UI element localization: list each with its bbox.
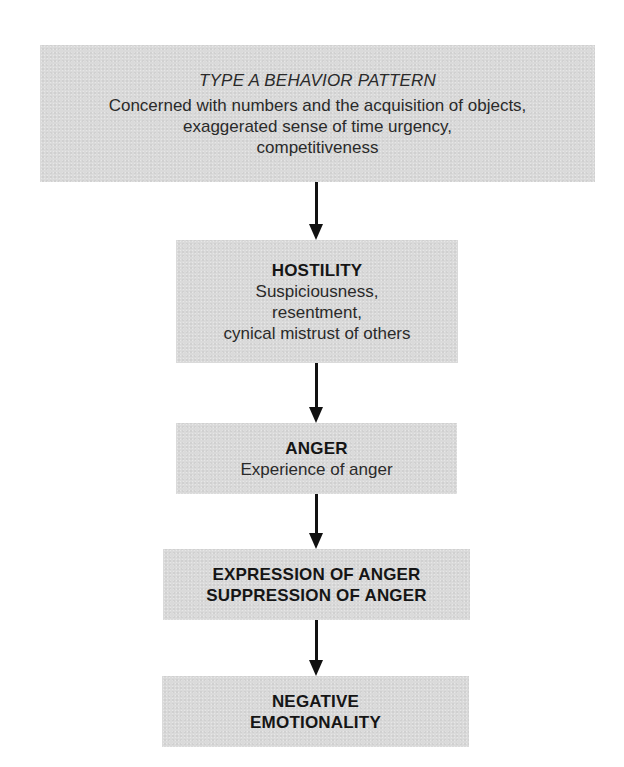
node-title: HOSTILITY bbox=[272, 260, 363, 281]
node-anger: ANGER Experience of anger bbox=[176, 423, 457, 494]
description-line: competitiveness bbox=[109, 137, 527, 158]
node-expression-suppression-of-anger: EXPRESSION OF ANGER SUPPRESSION OF ANGER bbox=[163, 549, 470, 620]
node-title-line: NEGATIVE bbox=[272, 691, 359, 712]
arrow-down-icon bbox=[309, 620, 323, 676]
node-description: Suspiciousness, resentment, cynical mist… bbox=[223, 281, 410, 344]
node-title-line: EMOTIONALITY bbox=[250, 712, 381, 733]
node-title-line: EXPRESSION OF ANGER bbox=[212, 564, 420, 585]
node-title-line: SUPPRESSION OF ANGER bbox=[206, 585, 427, 606]
node-type-a-behavior-pattern: TYPE A BEHAVIOR PATTERN Concerned with n… bbox=[40, 45, 595, 182]
description-line: Experience of anger bbox=[240, 459, 392, 480]
node-description: Experience of anger bbox=[240, 459, 392, 480]
node-title: ANGER bbox=[285, 438, 347, 459]
description-line: exaggerated sense of time urgency, bbox=[109, 116, 527, 137]
description-line: Concerned with numbers and the acquisiti… bbox=[109, 95, 527, 116]
arrow-down-icon bbox=[309, 494, 323, 549]
node-description: Concerned with numbers and the acquisiti… bbox=[109, 95, 527, 158]
arrow-down-icon bbox=[309, 363, 323, 423]
arrow-down-icon bbox=[309, 182, 323, 240]
description-line: cynical mistrust of others bbox=[223, 323, 410, 344]
node-hostility: HOSTILITY Suspiciousness, resentment, cy… bbox=[176, 240, 458, 363]
description-line: resentment, bbox=[223, 302, 410, 323]
node-title: TYPE A BEHAVIOR PATTERN bbox=[199, 70, 436, 91]
description-line: Suspiciousness, bbox=[223, 281, 410, 302]
node-negative-emotionality: NEGATIVE EMOTIONALITY bbox=[162, 676, 469, 747]
